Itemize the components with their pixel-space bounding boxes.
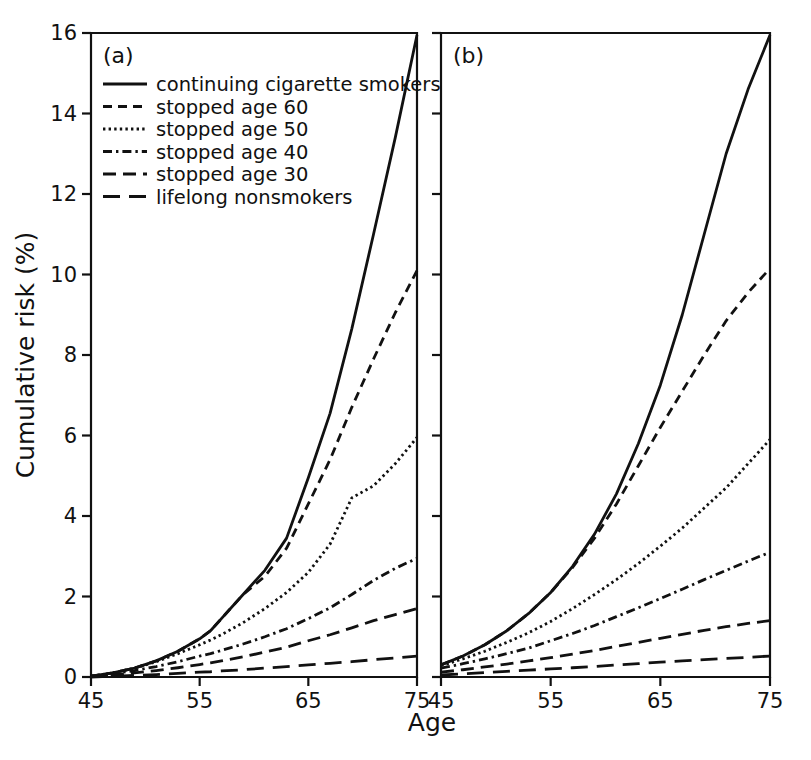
y-axis-tick-label: 4: [64, 504, 77, 528]
x-axis-tick-label: 65: [295, 689, 322, 713]
y-axis-tick-label: 8: [64, 343, 77, 367]
legend-label: continuing cigarette smokers: [156, 73, 441, 96]
y-axis: 0246810121416Cumulative risk (%): [11, 21, 91, 689]
cumulative-risk-chart: 0246810121416Cumulative risk (%) 4555657…: [0, 0, 811, 760]
y-axis-tick-label: 10: [50, 263, 77, 287]
series-line-dotted: [91, 438, 417, 677]
panel-label: (a): [103, 43, 134, 68]
legend-label: lifelong nonsmokers: [156, 186, 353, 209]
legend-label: stopped age 30: [156, 163, 308, 186]
x-axis-tick-label: 55: [186, 689, 213, 713]
y-axis-tick-label: 12: [50, 182, 77, 206]
legend-label: stopped age 40: [156, 141, 308, 164]
y-axis-tick-label: 6: [64, 424, 77, 448]
series-line-dotted: [441, 440, 770, 666]
panel-b: 45556575(b): [428, 33, 784, 713]
axis-titles: Age: [408, 708, 456, 737]
y-axis-tick-label: 2: [64, 585, 77, 609]
series-line-dashed: [441, 268, 770, 664]
plot-frame: [441, 33, 770, 677]
x-axis-tick-label: 55: [537, 689, 564, 713]
series-line-solid: [441, 35, 770, 665]
legend: continuing cigarette smokersstopped age …: [103, 73, 441, 209]
x-axis-tick-label: 75: [757, 689, 784, 713]
panel-label: (b): [453, 43, 484, 68]
series-line-dash-dot: [441, 552, 770, 668]
legend-label: stopped age 60: [156, 96, 308, 119]
y-axis-tick-label: 16: [50, 21, 77, 45]
x-axis-tick-label: 65: [647, 689, 674, 713]
figure-container: 0246810121416Cumulative risk (%) 4555657…: [0, 0, 811, 760]
y-axis-title: Cumulative risk (%): [11, 232, 40, 479]
legend-label: stopped age 50: [156, 118, 308, 141]
x-axis-tick-label: 45: [78, 689, 105, 713]
y-axis-tick-label: 0: [64, 665, 77, 689]
y-axis-tick-label: 14: [50, 102, 77, 126]
x-axis-title: Age: [408, 708, 456, 737]
